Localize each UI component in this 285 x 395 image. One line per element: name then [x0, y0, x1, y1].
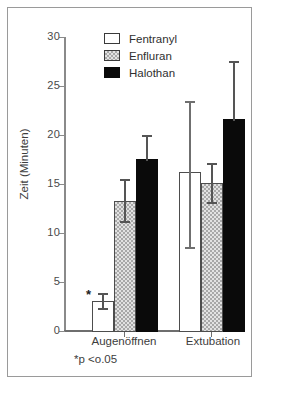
- legend-item-label: Enfluran: [129, 50, 172, 62]
- black-square-icon: [104, 67, 120, 78]
- errorbar-halothan-extubation: [229, 61, 239, 121]
- errorbar-stem: [124, 179, 126, 223]
- significance-asterisk: *: [86, 292, 91, 298]
- x-axis-label-augenoeffnen: Augenöffnen: [74, 335, 174, 347]
- errorbar-cap-bottom: [207, 202, 217, 204]
- legend-item-label: Halothan: [129, 67, 175, 79]
- legend-item-enfluran[interactable]: Enfluran: [104, 47, 177, 64]
- legend-item-fentranyl[interactable]: Fentranyl: [104, 30, 177, 47]
- y-axis-tick-label: 30: [47, 30, 60, 42]
- legend-item-halothan[interactable]: Halothan: [104, 64, 177, 81]
- legend-item-label: Fentranyl: [129, 33, 177, 45]
- y-axis-tick-label: 10: [47, 226, 60, 238]
- errorbar-fentranyl-extubation: [185, 101, 195, 249]
- legend: Fentranyl Enfluran Halothan: [104, 30, 177, 81]
- errorbar-stem: [211, 163, 213, 204]
- figure-frame: 30 25 20 15 10 5 0 Zei: [7, 7, 252, 377]
- errorbar-cap-bottom: [120, 221, 130, 223]
- errorbar-enfluran-augenoeffnen: [120, 179, 130, 223]
- errorbar-stem: [146, 135, 148, 161]
- errorbar-cap-bottom: [98, 308, 108, 310]
- plot-area: 30 25 20 15 10 5 0 Zei: [8, 8, 253, 378]
- y-axis-tick-label: 5: [54, 275, 60, 287]
- errorbar-cap-bottom: [185, 247, 195, 249]
- errorbar-fentranyl-augenoeffnen: [98, 293, 108, 310]
- y-axis-tick-label: 20: [47, 128, 60, 140]
- x-axis-label-extubation: Extubation: [163, 335, 263, 347]
- errorbar-stem: [189, 101, 191, 249]
- y-axis-tick-label: 25: [47, 79, 60, 91]
- bar-halothan-extubation[interactable]: [223, 119, 245, 332]
- errorbar-stem: [233, 61, 235, 121]
- bar-enfluran-extubation[interactable]: [201, 183, 223, 332]
- y-axis-tick-label: 15: [47, 177, 60, 189]
- footnote-significance: *p <o.05: [74, 353, 117, 365]
- bar-halothan-augenoeffnen[interactable]: [136, 159, 158, 332]
- hatched-square-icon: [104, 50, 120, 61]
- y-axis-tick-label: 0: [54, 324, 60, 336]
- y-axis-title: Zeit (Minuten): [18, 104, 30, 224]
- errorbar-enfluran-extubation: [207, 163, 217, 204]
- errorbar-halothan-augenoeffnen: [142, 135, 152, 161]
- white-square-icon: [104, 33, 120, 44]
